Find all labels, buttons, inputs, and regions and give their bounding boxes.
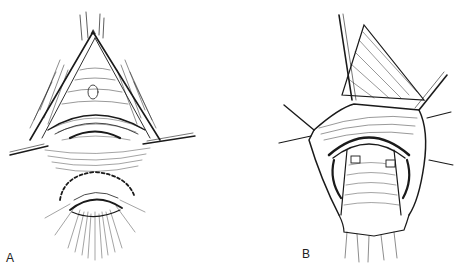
panel-label-b: B: [302, 248, 310, 260]
surgical-illustration-a: [0, 0, 229, 271]
panel-label-a: A: [6, 252, 14, 264]
figure-panel-a: A: [0, 0, 229, 271]
surgical-illustration-b: [229, 0, 458, 271]
figure-panel-b: B: [229, 0, 458, 271]
